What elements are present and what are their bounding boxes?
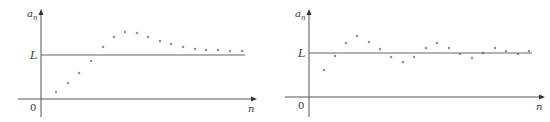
data-point	[323, 69, 325, 71]
data-point	[182, 46, 184, 48]
data-point	[205, 49, 207, 51]
data-point	[390, 56, 392, 58]
data-point	[136, 32, 138, 34]
data-point	[67, 82, 69, 84]
data-point	[102, 46, 104, 48]
data-point	[402, 61, 404, 63]
x-axis-label: n	[248, 103, 254, 114]
data-point	[494, 47, 496, 49]
plot-left: ann0L	[18, 8, 257, 117]
origin-label: 0	[298, 100, 304, 111]
data-point	[124, 31, 126, 33]
data-point	[471, 57, 473, 59]
plot-right: ann0L	[285, 8, 545, 117]
data-point	[528, 50, 530, 52]
data-point	[448, 47, 450, 49]
data-point	[170, 43, 172, 45]
limit-label: L	[29, 49, 37, 62]
x-axis-arrow-icon	[539, 95, 545, 100]
data-point	[78, 72, 80, 74]
x-axis-label: n	[536, 101, 542, 112]
data-point	[345, 42, 347, 44]
data-point	[425, 47, 427, 49]
y-axis-arrow-icon	[39, 9, 44, 15]
data-point	[159, 40, 161, 42]
data-point	[368, 41, 370, 43]
data-point	[413, 56, 415, 58]
data-point	[241, 50, 243, 52]
y-axis-label: an	[295, 8, 306, 22]
y-axis-arrow-icon	[307, 9, 312, 15]
sequence-convergence-figure: ann0L ann0L	[0, 0, 550, 122]
data-point	[334, 55, 336, 57]
y-axis-label: an	[27, 8, 38, 22]
limit-label: L	[297, 47, 305, 60]
data-point	[229, 50, 231, 52]
data-point	[194, 48, 196, 50]
data-point	[505, 50, 507, 52]
data-point	[356, 35, 358, 37]
origin-label: 0	[30, 102, 36, 113]
x-axis-arrow-icon	[251, 97, 257, 102]
data-point	[90, 60, 92, 62]
data-point	[217, 49, 219, 51]
data-point	[55, 91, 57, 93]
data-point	[113, 36, 115, 38]
data-point	[482, 52, 484, 54]
data-point	[436, 42, 438, 44]
data-point	[379, 48, 381, 50]
data-point	[147, 36, 149, 38]
